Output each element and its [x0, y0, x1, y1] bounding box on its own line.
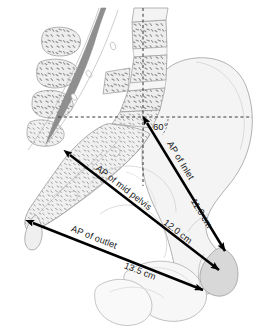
vertebral-body-l4: [130, 55, 167, 83]
vertebral-body-l5-left-lamina: [103, 68, 130, 94]
obturator-curve: [100, 205, 167, 258]
canal-foramen-1: [109, 41, 117, 50]
inlet-angle-label: 60°: [153, 121, 168, 132]
vertebra-top-partial: [132, 8, 168, 22]
lumbar-vertebrae-group: [103, 8, 168, 128]
pelvis-diagram-figure: 60° AP of Inlet 11.0 cm AP of mid pelvis…: [0, 0, 258, 330]
spinous-process-1: [42, 27, 81, 56]
pelvis-diagram-canvas: 60° AP of Inlet 11.0 cm AP of mid pelvis…: [0, 0, 258, 330]
vertebral-body-l3: [132, 20, 167, 49]
